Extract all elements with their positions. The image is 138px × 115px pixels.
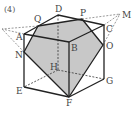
label-D: D [55, 4, 62, 14]
label-P: P [80, 8, 86, 18]
label-O: O [106, 41, 113, 51]
cube-diagram: (4) D Q P M C A B O N H G E F [0, 0, 138, 115]
label-C: C [106, 24, 113, 34]
label-A: A [15, 32, 23, 42]
label-E: E [16, 86, 23, 96]
label-B: B [71, 43, 78, 53]
label-Q: Q [34, 14, 41, 24]
label-H: H [50, 62, 58, 72]
label-N: N [15, 50, 23, 60]
label-G: G [106, 76, 113, 86]
label-F: F [66, 98, 72, 108]
problem-number: (4) [4, 5, 15, 14]
label-M: M [122, 10, 131, 20]
